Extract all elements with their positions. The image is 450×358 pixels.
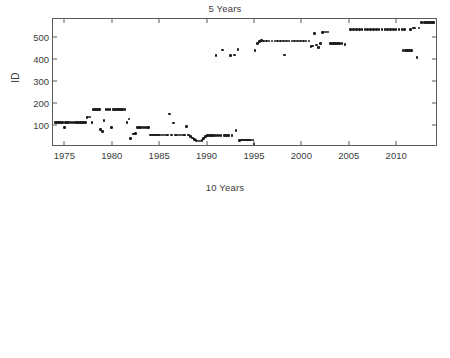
data-point xyxy=(91,121,94,124)
data-point xyxy=(403,28,406,31)
y-tick-mark-right xyxy=(432,125,436,126)
data-point xyxy=(128,118,131,121)
data-point xyxy=(398,28,401,31)
x-tick-label: 1995 xyxy=(243,150,264,161)
y-tick-mark xyxy=(53,80,57,81)
data-point xyxy=(235,129,238,132)
y-tick-label: 300 xyxy=(33,75,49,86)
data-point xyxy=(234,54,237,57)
data-point xyxy=(317,46,320,49)
data-point xyxy=(124,108,127,111)
x-tick-label: 2005 xyxy=(338,150,359,161)
x-tick-mark-top xyxy=(64,19,65,23)
data-point xyxy=(63,126,66,129)
data-point xyxy=(271,40,274,43)
data-point xyxy=(433,21,436,24)
x-tick-mark-top xyxy=(348,19,349,23)
data-point xyxy=(381,28,384,31)
data-point xyxy=(172,122,175,125)
data-point xyxy=(201,139,204,142)
y-tick-mark-right xyxy=(432,80,436,81)
x-tick-mark xyxy=(159,141,160,145)
x-tick-mark-top xyxy=(206,19,207,23)
data-point xyxy=(109,108,112,111)
data-point xyxy=(227,134,230,137)
x-tick-label: 2000 xyxy=(291,150,312,161)
data-point xyxy=(170,134,173,137)
data-point xyxy=(98,108,101,111)
y-tick-mark-right xyxy=(432,36,436,37)
data-point xyxy=(344,43,347,46)
x-tick-label: 1975 xyxy=(54,150,75,161)
panel-five-years: 5 Years ID 10020030040050019751980198519… xyxy=(0,0,450,178)
data-point xyxy=(254,49,257,52)
data-point xyxy=(215,54,218,57)
panel-title-five-years: 5 Years xyxy=(0,3,450,14)
y-tick-label: 500 xyxy=(33,31,49,42)
y-tick-mark xyxy=(53,125,57,126)
data-point xyxy=(237,48,240,51)
x-tick-mark-top xyxy=(253,19,254,23)
x-tick-label: 1985 xyxy=(149,150,170,161)
data-point xyxy=(327,31,330,34)
data-point xyxy=(288,40,291,43)
data-point xyxy=(418,27,421,30)
y-tick-mark xyxy=(53,58,57,59)
data-point xyxy=(110,126,113,129)
data-point xyxy=(319,42,322,45)
data-point xyxy=(84,121,87,124)
data-point xyxy=(168,113,171,116)
y-tick-label: 400 xyxy=(33,53,49,64)
x-tick-mark-top xyxy=(111,19,112,23)
data-point xyxy=(253,143,256,146)
x-tick-mark-top xyxy=(301,19,302,23)
x-tick-mark xyxy=(301,141,302,145)
data-point xyxy=(414,27,417,30)
panel-ten-years: 10 Years ID 1002003004005001980198519901… xyxy=(0,178,450,358)
x-tick-mark-top xyxy=(396,19,397,23)
x-tick-mark xyxy=(206,141,207,145)
y-axis-label-top: ID xyxy=(10,61,21,95)
data-point xyxy=(283,54,286,57)
data-point xyxy=(103,119,106,122)
x-tick-label: 1980 xyxy=(101,150,122,161)
data-point xyxy=(231,134,234,137)
x-tick-mark xyxy=(111,141,112,145)
y-tick-label: 200 xyxy=(33,98,49,109)
y-tick-label: 100 xyxy=(33,120,49,131)
data-point xyxy=(416,56,419,59)
scatter-figure: 5 Years ID 10020030040050019751980198519… xyxy=(0,0,450,358)
x-tick-mark xyxy=(348,141,349,145)
x-tick-mark-top xyxy=(159,19,160,23)
data-point xyxy=(129,137,132,140)
data-point xyxy=(147,126,150,129)
data-point xyxy=(185,125,188,128)
data-point xyxy=(410,49,413,52)
data-point xyxy=(229,54,232,57)
data-point xyxy=(220,134,223,137)
data-point xyxy=(183,134,186,137)
data-point xyxy=(221,49,224,52)
data-point xyxy=(313,32,316,35)
x-tick-label: 1990 xyxy=(196,150,217,161)
data-point xyxy=(308,40,311,43)
data-point xyxy=(126,121,129,124)
x-tick-mark xyxy=(396,141,397,145)
x-tick-mark xyxy=(64,141,65,145)
data-point xyxy=(134,132,137,135)
y-tick-mark xyxy=(53,103,57,104)
y-tick-mark xyxy=(53,36,57,37)
data-point xyxy=(89,116,92,119)
data-point xyxy=(361,28,364,31)
plot-area-five-years: 1002003004005001975198019851990199520002… xyxy=(52,18,437,146)
panel-title-ten-years: 10 Years xyxy=(0,182,450,193)
y-tick-mark-right xyxy=(432,103,436,104)
data-point xyxy=(311,45,314,48)
data-point xyxy=(166,134,169,137)
y-tick-mark-right xyxy=(432,58,436,59)
data-point xyxy=(101,130,104,133)
x-tick-label: 2010 xyxy=(386,150,407,161)
